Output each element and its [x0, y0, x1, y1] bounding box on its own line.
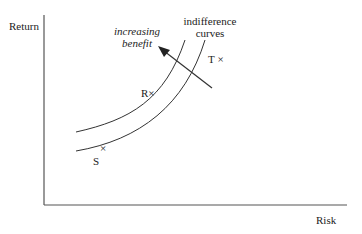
point-s-label: S — [93, 155, 99, 167]
benefit-arrow-shaft — [164, 51, 212, 88]
arrow-label-line2: benefit — [112, 37, 162, 49]
curves-label-line1: indifference — [175, 15, 245, 27]
point-r: R× — [141, 87, 155, 99]
arrow-label: increasing benefit — [112, 25, 162, 49]
curves-label-line2: curves — [175, 27, 245, 39]
y-axis-label: Return — [9, 20, 39, 32]
point-t: T × — [208, 53, 224, 65]
point-s-marker-icon: × — [100, 142, 106, 154]
arrow-label-line1: increasing — [112, 25, 162, 37]
point-t-marker-icon: × — [217, 53, 223, 65]
x-axis-label: Risk — [316, 214, 336, 226]
point-s-marker: × — [100, 142, 106, 154]
curves-label: indifference curves — [175, 15, 245, 39]
indifference-curve-upper — [76, 40, 185, 132]
point-t-label: T — [208, 53, 215, 65]
point-r-marker-icon: × — [148, 87, 154, 99]
